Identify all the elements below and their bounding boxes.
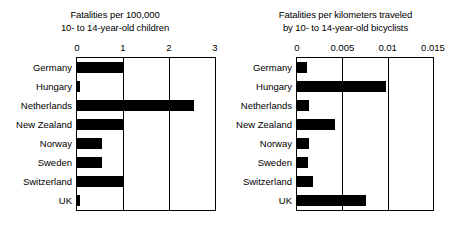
category-label: Germany [33, 63, 72, 73]
category-label: Switzerland [243, 177, 292, 187]
plot-area-left [76, 57, 216, 211]
category-label: Switzerland [23, 177, 72, 187]
bar [297, 176, 313, 187]
category-label: Netherlands [241, 101, 292, 111]
x-tick-label: 0 [54, 43, 100, 53]
category-label: Sweden [38, 158, 72, 168]
bar [297, 195, 366, 206]
x-tick-label: 0.005 [319, 43, 365, 53]
plot-area-right [296, 57, 434, 211]
bar [77, 119, 123, 130]
chart-panel-bicyclist-fatalities: Fatalities per kilometers traveled by 10… [230, 0, 461, 231]
bar [297, 157, 308, 168]
bar [77, 157, 102, 168]
gridline [388, 58, 389, 210]
x-tick-label: 0.01 [365, 43, 411, 53]
chart-panel-children-fatalities: Fatalities per 100,000 10- to 14-year-ol… [0, 0, 230, 231]
category-label: UK [59, 196, 72, 206]
figure-two-panel-bar-charts: Fatalities per 100,000 10- to 14-year-ol… [0, 0, 461, 231]
bar [297, 100, 309, 111]
bar [77, 100, 194, 111]
category-label: New Zealand [236, 120, 292, 130]
bar [297, 62, 307, 73]
category-label: Norway [40, 139, 72, 149]
bar [297, 81, 386, 92]
bar [297, 138, 309, 149]
bar [77, 138, 102, 149]
bar [77, 195, 80, 206]
bar [297, 119, 335, 130]
x-tick-label: 0.015 [410, 43, 456, 53]
x-tick-label: 0 [274, 43, 320, 53]
bar [77, 176, 123, 187]
category-label: Hungary [36, 82, 72, 92]
category-label: Germany [253, 63, 292, 73]
x-tick-label: 1 [100, 43, 146, 53]
category-axis-labels-right: GermanyHungaryNetherlandsNew ZealandNorw… [230, 0, 292, 231]
category-label: Hungary [256, 82, 292, 92]
category-label: UK [279, 196, 292, 206]
category-label: Netherlands [21, 101, 72, 111]
category-label: Norway [260, 139, 292, 149]
category-label: Sweden [258, 158, 292, 168]
bar [77, 81, 80, 92]
gridline [169, 58, 170, 210]
gridline [123, 58, 124, 210]
bar [77, 62, 123, 73]
category-label: New Zealand [16, 120, 72, 130]
x-tick-label: 2 [146, 43, 192, 53]
category-axis-labels-left: GermanyHungaryNetherlandsNew ZealandNorw… [0, 0, 72, 231]
